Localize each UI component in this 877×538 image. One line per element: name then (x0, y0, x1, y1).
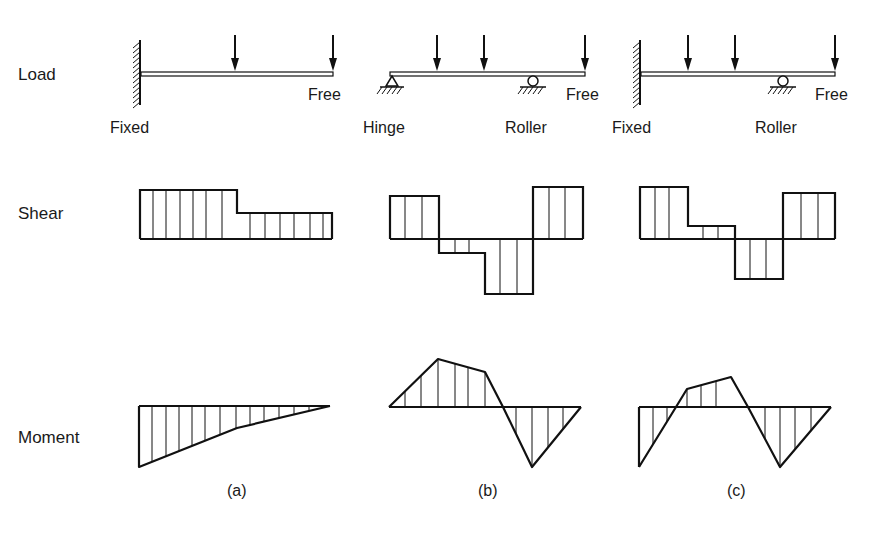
label-roller-b: Roller (505, 119, 547, 136)
hatch (633, 102, 640, 108)
panel-c (633, 35, 839, 467)
load-diagram (377, 35, 589, 94)
caption-a: (a) (227, 482, 247, 499)
hatch (528, 87, 533, 94)
hatch (133, 82, 140, 88)
fixed-wall-support-icon (133, 40, 140, 108)
hatch (392, 87, 397, 94)
label-roller-c: Roller (755, 119, 797, 136)
hatch (518, 87, 523, 94)
hatch (633, 92, 640, 98)
hatch (133, 42, 140, 48)
beam (141, 72, 333, 76)
arrowhead-icon (231, 58, 239, 71)
roller-support-icon (518, 76, 546, 94)
shear-moment-figure: Load Shear Moment Free Fixed (a) Free Hi… (0, 0, 877, 538)
arrowhead-icon (480, 58, 488, 71)
moment-diagram (389, 359, 581, 467)
hatch (768, 87, 773, 94)
hatch (133, 92, 140, 98)
hatch (633, 97, 640, 103)
hatch (133, 102, 140, 108)
caption-b: (b) (478, 482, 498, 499)
hatch (633, 77, 640, 83)
hatch (133, 97, 140, 103)
row-label-shear: Shear (18, 204, 64, 223)
load-diagram (633, 35, 839, 108)
roller-support-icon (768, 76, 796, 94)
row-label-load: Load (18, 65, 56, 84)
arrowhead-icon (581, 58, 589, 71)
label-free-b: Free (566, 86, 599, 103)
hatch (133, 87, 140, 93)
hinge-support-icon (377, 76, 404, 94)
hatch (523, 87, 528, 94)
shear-outline (390, 187, 583, 294)
beam (390, 72, 585, 76)
hatch (633, 47, 640, 53)
hatch (633, 72, 640, 78)
hatch (788, 87, 793, 94)
caption-c: (c) (727, 482, 746, 499)
beam (641, 72, 835, 76)
label-fixed-c: Fixed (612, 119, 651, 136)
moment-curve (639, 377, 831, 467)
arrowhead-icon (684, 58, 692, 71)
hatch (633, 82, 640, 88)
diagram-drawings (133, 35, 839, 467)
hatch (633, 52, 640, 58)
hatch (538, 87, 543, 94)
hatch (133, 67, 140, 73)
label-free-c: Free (815, 86, 848, 103)
moment-diagram (139, 406, 330, 467)
moment-diagram (639, 377, 831, 467)
arrowhead-icon (731, 58, 739, 71)
shear-diagram (140, 190, 332, 239)
hatch (773, 87, 778, 94)
roller-circle (778, 76, 788, 86)
hatch (783, 87, 788, 94)
hatch (533, 87, 538, 94)
hatch (387, 87, 392, 94)
hatch (133, 57, 140, 63)
arrowhead-icon (329, 58, 337, 71)
hatch (633, 42, 640, 48)
hinge-triangle (386, 76, 398, 86)
label-fixed-a: Fixed (110, 119, 149, 136)
hatch (382, 87, 387, 94)
hatch (633, 87, 640, 93)
hatch (633, 62, 640, 68)
fixed-wall-support-icon (633, 40, 640, 108)
arrowhead-icon (433, 58, 441, 71)
moment-curve (139, 406, 330, 467)
shear-outline (140, 190, 332, 239)
hatch (133, 77, 140, 83)
hatch (778, 87, 783, 94)
shear-diagram (640, 187, 835, 279)
hatch (133, 62, 140, 68)
roller-circle (528, 76, 538, 86)
panel-b (377, 35, 589, 467)
panel-a (133, 35, 337, 467)
label-free-a: Free (308, 86, 341, 103)
hatch (397, 87, 402, 94)
shear-diagram (390, 187, 583, 294)
label-hinge-b: Hinge (363, 119, 405, 136)
arrowhead-icon (831, 58, 839, 71)
hatch (633, 57, 640, 63)
hatch (133, 52, 140, 58)
hatch (133, 72, 140, 78)
hatch (377, 87, 382, 94)
hatch (633, 67, 640, 73)
row-label-moment: Moment (18, 428, 80, 447)
load-diagram (133, 35, 337, 108)
hatch (133, 47, 140, 53)
